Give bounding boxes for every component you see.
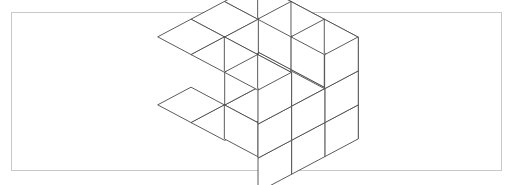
isometric-cube-figure (0, 0, 513, 185)
screenshot-root (0, 0, 513, 185)
voxel-group (158, 0, 358, 185)
